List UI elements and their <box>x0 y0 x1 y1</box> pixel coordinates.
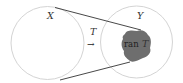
map-label: T <box>90 26 97 37</box>
domain-label: X <box>46 10 55 21</box>
upper-mapping-line <box>55 8 141 31</box>
codomain-label: Y <box>137 10 145 21</box>
range-symbol: T <box>142 38 149 49</box>
arrow-icon: → <box>87 39 95 49</box>
mapping-diagram: X Y T → ran T <box>0 0 183 83</box>
range-prefix: ran <box>124 39 139 49</box>
